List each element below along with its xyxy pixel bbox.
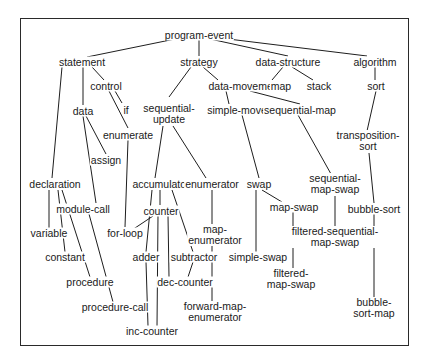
- node-program-event: program-event: [164, 30, 234, 41]
- node-label: control: [90, 81, 122, 92]
- node-label: stack: [307, 81, 332, 92]
- edge: [226, 91, 229, 104]
- node-counter: counter: [142, 206, 179, 217]
- node-label: adder: [133, 252, 160, 263]
- node-statement: statement: [58, 57, 106, 68]
- node-label: sort-map: [353, 308, 394, 319]
- node-bubble-sort: bubble-sort: [347, 204, 402, 215]
- node-label: subtractor: [171, 252, 218, 263]
- node-label: program-event: [165, 30, 233, 41]
- node-procedure-call: procedure-call: [81, 302, 150, 313]
- node-sequential-map-swap: sequential-map-swap: [308, 173, 361, 195]
- node-label: accumulator: [132, 179, 189, 190]
- node-adder: adder: [132, 252, 161, 263]
- node-dec-counter: dec-counter: [156, 277, 213, 288]
- node-label: module-call: [56, 204, 110, 215]
- node-label: procedure: [66, 277, 113, 288]
- node-strategy: strategy: [179, 57, 218, 68]
- node-subtractor: subtractor: [170, 252, 219, 263]
- node-label: bubble-sort: [348, 204, 401, 215]
- node-if: if: [122, 105, 129, 116]
- edge: [155, 126, 163, 178]
- node-stack: stack: [306, 81, 333, 92]
- node-label: constant: [45, 252, 85, 263]
- node-label: if: [123, 105, 128, 116]
- node-label: counter: [143, 206, 178, 217]
- edge: [157, 216, 158, 326]
- node-label: enumerator: [185, 179, 239, 190]
- node-variable: variable: [30, 228, 69, 239]
- edge: [203, 67, 218, 80]
- edge: [92, 67, 104, 80]
- node-label: data-structure: [256, 57, 321, 68]
- edge: [242, 115, 259, 178]
- edge: [298, 115, 331, 174]
- node-label: map-swap: [292, 237, 378, 248]
- node-bubble-sort-map: bubble-sort-map: [352, 297, 395, 319]
- node-inc-counter: inc-counter: [125, 326, 179, 337]
- node-label: procedure-call: [82, 302, 149, 313]
- edge: [168, 216, 169, 277]
- node-simple-swap: simple-swap: [228, 252, 288, 263]
- node-label: strategy: [180, 57, 217, 68]
- node-label: update: [143, 114, 194, 125]
- node-label: map-swap: [270, 202, 318, 213]
- node-for-loop: for-loop: [106, 228, 144, 239]
- node-label: assign: [91, 155, 121, 166]
- node-sequential-update: sequential-update: [142, 103, 195, 125]
- edge: [169, 67, 191, 97]
- node-label: enumerator: [184, 312, 246, 323]
- node-label: declaration: [29, 179, 80, 190]
- node-label: dec-counter: [157, 277, 212, 288]
- node-swap: swap: [246, 179, 273, 190]
- node-assign: assign: [90, 155, 122, 166]
- node-label: simple-swap: [229, 252, 287, 263]
- node-declaration: declaration: [28, 179, 81, 190]
- node-map-swap: map-swap: [269, 202, 319, 213]
- node-algorithm: algorithm: [352, 57, 397, 68]
- edge: [220, 38, 367, 56]
- node-label: algorithm: [353, 57, 396, 68]
- node-simple-move: simple-move: [206, 105, 268, 116]
- node-label: swap: [247, 179, 272, 190]
- node-label: sort: [336, 141, 399, 152]
- node-label: map-swap: [309, 184, 360, 195]
- node-accumulator: accumulator: [131, 179, 190, 190]
- edge: [272, 67, 283, 80]
- node-sort: sort: [366, 81, 386, 92]
- node-label: enumerate: [103, 130, 153, 141]
- edge: [367, 91, 376, 131]
- edge: [125, 140, 128, 227]
- node-sequential-map: sequential-map: [263, 105, 337, 116]
- node-filtered-sequential-map-swap: filtered-sequential-map-swap: [291, 226, 379, 248]
- node-filtered-map-swap: filtered-map-swap: [266, 268, 316, 290]
- node-data-structure: data-structure: [255, 57, 322, 68]
- node-label: for-loop: [107, 228, 143, 239]
- edge: [292, 67, 313, 80]
- node-control: control: [89, 81, 123, 92]
- node-label: simple-move: [207, 105, 267, 116]
- node-label: inc-counter: [126, 326, 178, 337]
- node-label: data: [73, 106, 93, 117]
- node-forward-map-enumerator: forward-map-enumerator: [183, 301, 247, 323]
- node-map-enumerator: map-enumerator: [187, 224, 243, 246]
- node-constant: constant: [44, 252, 86, 263]
- node-procedure: procedure: [65, 277, 114, 288]
- node-label: sequential-map: [264, 105, 336, 116]
- edge: [146, 262, 148, 326]
- node-label: variable: [31, 228, 68, 239]
- edge: [52, 67, 62, 178]
- node-label: enumerator: [188, 235, 242, 246]
- node-label: sort: [367, 81, 385, 92]
- node-transposition-sort: transposition-sort: [335, 130, 400, 152]
- node-label: map: [271, 81, 291, 92]
- node-label: statement: [59, 57, 105, 68]
- edge: [250, 91, 300, 104]
- node-enumerator: enumerator: [184, 179, 240, 190]
- edge: [87, 38, 180, 57]
- edge: [146, 190, 152, 252]
- edge: [369, 153, 374, 203]
- edge: [115, 91, 122, 103]
- node-enumerate: enumerate: [102, 130, 154, 141]
- node-label: map-swap: [267, 279, 315, 290]
